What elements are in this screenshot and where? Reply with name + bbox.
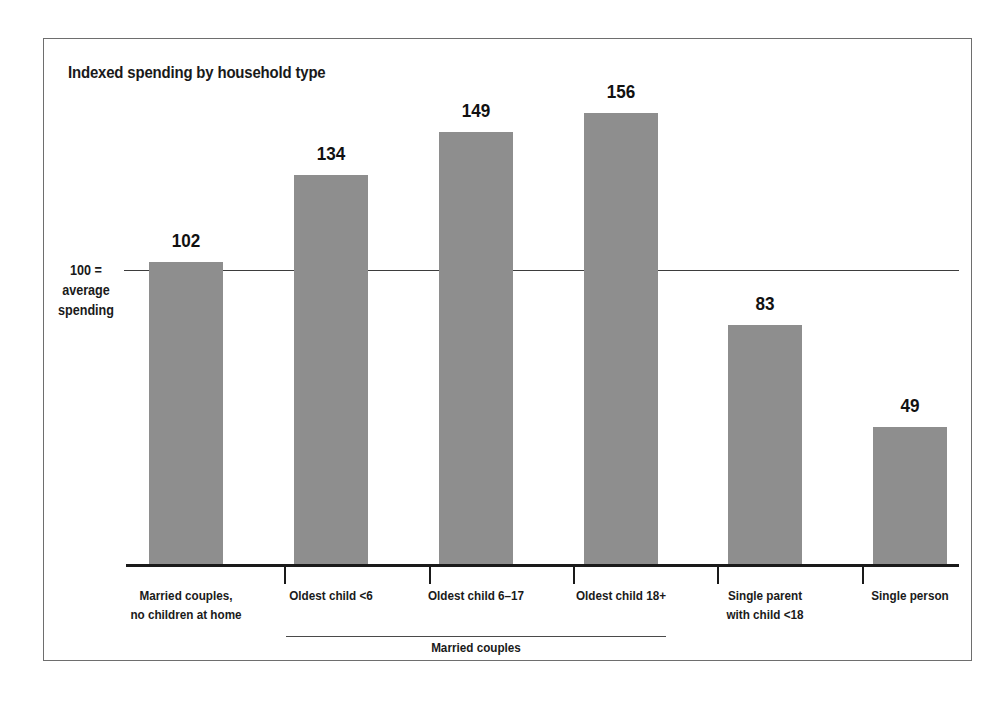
category-label-oldest-child-under-6: Oldest child <6 bbox=[259, 587, 403, 606]
axis-tick bbox=[573, 567, 575, 584]
category-label-line: no children at home bbox=[114, 606, 258, 625]
category-label-line: Oldest child 6–17 bbox=[404, 587, 548, 606]
group-bracket-line bbox=[286, 636, 666, 637]
axis-label-line-3: spending bbox=[54, 301, 119, 321]
axis-tick bbox=[284, 567, 286, 584]
category-label-single-parent: Single parent with child <18 bbox=[693, 587, 837, 625]
group-bracket-label-married-couples: Married couples bbox=[305, 640, 647, 655]
category-label-line: Single person bbox=[838, 587, 982, 606]
category-label-single-person: Single person bbox=[838, 587, 982, 606]
category-label-line: Married couples, bbox=[114, 587, 258, 606]
category-label-line: with child <18 bbox=[693, 606, 837, 625]
bar-value-label: 102 bbox=[153, 230, 220, 252]
axis-label-line-2: average bbox=[54, 281, 119, 301]
axis-label-line-1: 100 = bbox=[54, 261, 119, 281]
bar-oldest-child-under-6[interactable] bbox=[294, 175, 368, 566]
bar-oldest-child-18-plus[interactable] bbox=[584, 113, 658, 566]
axis-tick bbox=[429, 567, 431, 584]
category-label-married-no-children: Married couples, no children at home bbox=[114, 587, 258, 625]
category-label-line: Single parent bbox=[693, 587, 837, 606]
category-label-line: Oldest child 18+ bbox=[549, 587, 693, 606]
category-label-oldest-child-6-17: Oldest child 6–17 bbox=[404, 587, 548, 606]
bar-value-label: 149 bbox=[443, 100, 510, 122]
bar-value-label: 49 bbox=[877, 395, 944, 417]
category-label-oldest-child-18-plus: Oldest child 18+ bbox=[549, 587, 693, 606]
bar-single-parent-with-child[interactable] bbox=[728, 325, 802, 566]
x-axis-baseline bbox=[126, 564, 959, 567]
plot-area: 100 = average spending 102 134 149 156 8… bbox=[44, 39, 971, 660]
axis-tick bbox=[862, 567, 864, 584]
axis-tick bbox=[717, 567, 719, 584]
bar-oldest-child-6-17[interactable] bbox=[439, 132, 513, 566]
bar-value-label: 134 bbox=[298, 143, 365, 165]
category-label-line: Oldest child <6 bbox=[259, 587, 403, 606]
reference-line-100 bbox=[124, 270, 959, 271]
axis-label-average-spending: 100 = average spending bbox=[54, 261, 119, 321]
bar-single-person[interactable] bbox=[873, 427, 947, 566]
chart-frame: Indexed spending by household type 100 =… bbox=[43, 38, 972, 661]
bar-value-label: 83 bbox=[732, 293, 799, 315]
bar-value-label: 156 bbox=[588, 81, 655, 103]
bar-married-no-children[interactable] bbox=[149, 262, 223, 566]
